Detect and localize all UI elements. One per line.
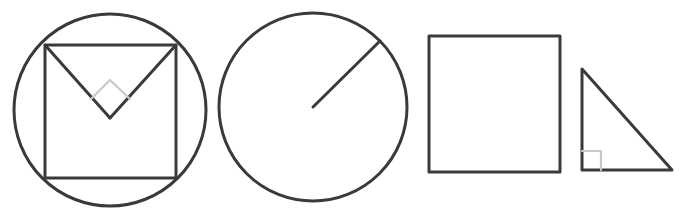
figure-4-right-triangle (582, 69, 672, 170)
chord-left (45, 45, 110, 118)
radius-line (313, 41, 380, 107)
figure-1-circle-with-inscribed-square (14, 14, 206, 206)
figures-canvas (0, 0, 690, 214)
right-angle-marker-diamond-icon (91, 80, 130, 99)
triangle-outline (582, 69, 672, 170)
right-angle-marker-square-icon (582, 151, 601, 170)
figure-2-circle-with-radius (219, 13, 407, 201)
chord-right (110, 45, 176, 118)
geometry-figure-sheet (0, 0, 690, 214)
figure-3-plain-square (429, 36, 560, 172)
square-outline (429, 36, 560, 172)
